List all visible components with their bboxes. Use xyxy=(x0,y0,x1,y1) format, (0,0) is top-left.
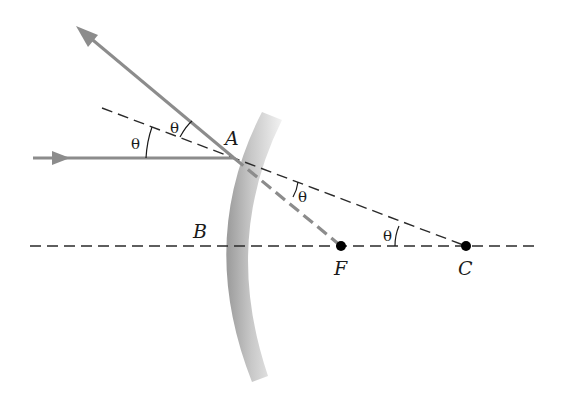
angle-arc-C xyxy=(395,226,399,246)
mirror-diagram: θ θ θ θ A B F C xyxy=(0,0,566,408)
point-C xyxy=(461,241,471,251)
reflected-arrowhead-icon xyxy=(76,26,98,47)
theta-label-A-F: θ xyxy=(298,188,307,206)
reflected-ray xyxy=(82,31,234,158)
label-C: C xyxy=(458,257,473,279)
diagram-canvas: θ θ θ θ A B F C xyxy=(0,0,566,408)
normal-line xyxy=(102,108,466,246)
theta-label-reflected: θ xyxy=(170,119,179,137)
concave-mirror xyxy=(226,112,282,382)
theta-label-incident: θ xyxy=(131,135,140,153)
label-A: A xyxy=(223,127,239,149)
angle-arc-incident xyxy=(146,127,152,158)
angle-arc-reflected xyxy=(180,121,192,137)
label-B: B xyxy=(192,220,207,242)
incident-arrowhead-icon xyxy=(52,151,70,165)
theta-label-C: θ xyxy=(383,227,392,245)
point-F xyxy=(336,241,346,251)
label-F: F xyxy=(333,257,348,279)
